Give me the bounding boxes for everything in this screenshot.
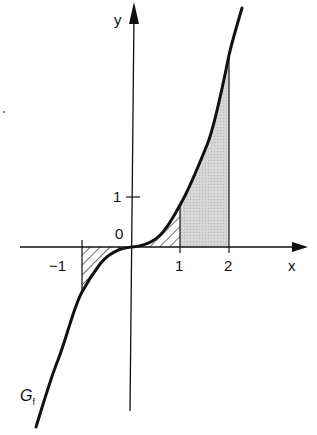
x-tick-label-2: 2 bbox=[224, 258, 232, 273]
plot-canvas bbox=[0, 0, 317, 435]
x-tick-label-1: 1 bbox=[175, 258, 183, 273]
area-0-to-1 bbox=[132, 205, 180, 247]
function-graph: y x 0 1 −1 1 2 Gf bbox=[0, 0, 317, 435]
curve-label-sub: f bbox=[32, 397, 35, 407]
y-axis-arrow-icon bbox=[129, 2, 139, 24]
curve-label-main: G bbox=[20, 387, 32, 404]
y-tick-label-1: 1 bbox=[113, 189, 121, 204]
y-axis-label: y bbox=[114, 12, 122, 27]
y-axis bbox=[130, 14, 134, 411]
curve-label-gf: Gf bbox=[20, 388, 35, 407]
stray-dot bbox=[3, 111, 5, 113]
x-axis-label: x bbox=[288, 258, 296, 273]
area-neg1-to-0 bbox=[82, 247, 132, 292]
x-tick-label-neg1: −1 bbox=[49, 258, 66, 273]
x-axis-arrow-icon bbox=[292, 242, 308, 252]
origin-label: 0 bbox=[115, 226, 123, 241]
